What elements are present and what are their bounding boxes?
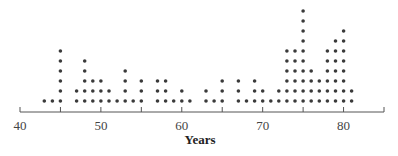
x-axis-ticks: [20, 107, 384, 112]
data-dot: [115, 99, 119, 103]
data-dot: [293, 49, 297, 53]
data-dot: [301, 99, 305, 103]
data-dot: [334, 39, 338, 43]
data-dot: [212, 99, 216, 103]
data-dot: [326, 99, 330, 103]
data-dot: [334, 59, 338, 63]
data-dot: [301, 19, 305, 23]
data-dot: [293, 99, 297, 103]
data-dot: [164, 99, 168, 103]
data-dot: [245, 99, 249, 103]
data-dot: [334, 89, 338, 93]
data-dot: [83, 69, 87, 73]
data-dot: [350, 89, 354, 93]
data-dot: [91, 79, 95, 83]
data-dot: [334, 79, 338, 83]
data-dot: [309, 79, 313, 83]
data-dot: [83, 89, 87, 93]
data-dot: [107, 99, 111, 103]
data-dot: [326, 89, 330, 93]
data-dot: [334, 99, 338, 103]
data-dot: [261, 89, 265, 93]
data-dot: [309, 89, 313, 93]
data-dot: [59, 49, 63, 53]
data-dot: [180, 99, 184, 103]
data-dot: [75, 89, 79, 93]
data-dot: [301, 69, 305, 73]
dot-plot: 4050607080 Years: [0, 0, 398, 156]
data-dot: [301, 79, 305, 83]
data-dot: [301, 9, 305, 13]
data-dot: [285, 49, 289, 53]
data-dots: [43, 9, 354, 103]
data-dot: [156, 79, 160, 83]
data-dot: [237, 79, 241, 83]
data-dot: [51, 99, 55, 103]
data-dot: [301, 49, 305, 53]
data-dot: [301, 59, 305, 63]
data-dot: [293, 79, 297, 83]
data-dot: [293, 89, 297, 93]
data-dot: [269, 99, 273, 103]
data-dot: [164, 89, 168, 93]
data-dot: [220, 89, 224, 93]
data-dot: [83, 99, 87, 103]
data-dot: [220, 79, 224, 83]
data-dot: [253, 79, 257, 83]
data-dot: [285, 79, 289, 83]
data-dot: [172, 99, 176, 103]
data-dot: [220, 99, 224, 103]
data-dot: [91, 89, 95, 93]
data-dot: [342, 79, 346, 83]
data-dot: [342, 69, 346, 73]
data-dot: [75, 99, 79, 103]
data-dot: [91, 99, 95, 103]
data-dot: [59, 59, 63, 63]
data-dot: [326, 69, 330, 73]
data-dot: [180, 89, 184, 93]
data-dot: [342, 49, 346, 53]
data-dot: [83, 59, 87, 63]
x-tick-label: 60: [175, 118, 188, 133]
data-dot: [59, 89, 63, 93]
data-dot: [334, 69, 338, 73]
data-dot: [131, 99, 135, 103]
data-dot: [188, 99, 192, 103]
data-dot: [285, 89, 289, 93]
data-dot: [140, 99, 144, 103]
data-dot: [59, 69, 63, 73]
x-tick-label: 80: [337, 118, 350, 133]
data-dot: [285, 99, 289, 103]
data-dot: [285, 59, 289, 63]
data-dot: [326, 59, 330, 63]
data-dot: [43, 99, 47, 103]
data-dot: [123, 99, 127, 103]
data-dot: [107, 89, 111, 93]
data-dot: [309, 69, 313, 73]
x-axis-tick-labels: 4050607080: [14, 118, 351, 133]
data-dot: [342, 29, 346, 33]
x-axis-title: Years: [184, 132, 215, 147]
data-dot: [301, 39, 305, 43]
data-dot: [318, 79, 322, 83]
data-dot: [204, 89, 208, 93]
data-dot: [123, 69, 127, 73]
data-dot: [204, 99, 208, 103]
data-dot: [277, 89, 281, 93]
data-dot: [301, 29, 305, 33]
data-dot: [123, 79, 127, 83]
data-dot: [83, 79, 87, 83]
data-dot: [164, 79, 168, 83]
data-dot: [342, 59, 346, 63]
data-dot: [318, 99, 322, 103]
data-dot: [99, 99, 103, 103]
x-tick-label: 70: [256, 118, 269, 133]
data-dot: [59, 79, 63, 83]
data-dot: [253, 99, 257, 103]
data-dot: [334, 49, 338, 53]
data-dot: [326, 79, 330, 83]
data-dot: [301, 89, 305, 93]
data-dot: [156, 99, 160, 103]
data-dot: [253, 89, 257, 93]
data-dot: [99, 89, 103, 93]
